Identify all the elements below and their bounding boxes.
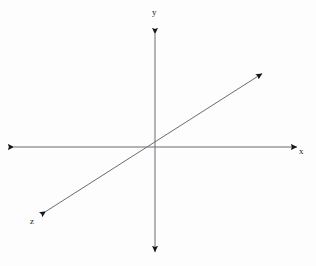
y-axis-label: y <box>152 8 157 17</box>
axes-canvas <box>0 0 316 266</box>
axes-diagram: x y z <box>0 0 316 266</box>
x-axis-label: x <box>299 147 304 156</box>
z-axis-line <box>46 74 262 212</box>
z-axis-label: z <box>30 217 34 226</box>
